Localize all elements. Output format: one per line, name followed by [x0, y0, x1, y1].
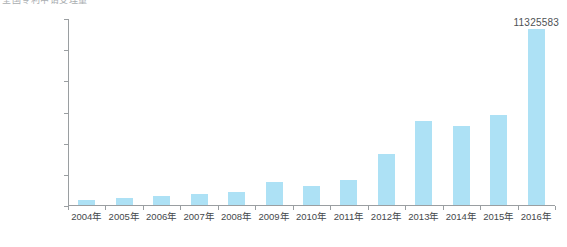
y-axis-tick	[64, 113, 68, 114]
x-axis-tick-label: 2011年	[334, 209, 364, 223]
bar	[228, 192, 245, 205]
x-axis-tick-label: 2005年	[109, 209, 140, 223]
bar	[528, 29, 545, 205]
bar	[266, 182, 283, 205]
bar	[153, 196, 170, 205]
bar-value-label: 11325583	[514, 17, 559, 28]
y-axis-tick	[64, 19, 68, 20]
x-axis-tick-label: 2010年	[296, 209, 327, 223]
x-axis-tick-label: 2007年	[184, 209, 215, 223]
bar	[116, 198, 133, 205]
x-axis-tick-label: 2015年	[483, 209, 514, 223]
x-axis-tick-label: 2012年	[371, 209, 402, 223]
y-axis-tick	[64, 50, 68, 51]
x-axis-tick-label: 2013年	[408, 209, 439, 223]
x-axis-tick-label: 2009年	[258, 209, 289, 223]
x-axis-tick-label: 2014年	[446, 209, 477, 223]
x-axis-tick-label: 2008年	[221, 209, 252, 223]
x-axis-tick-label: 2006年	[146, 209, 177, 223]
x-axis-tick-labels: 2004年2005年2006年2007年2008年2009年2010年2011年…	[68, 209, 555, 229]
bar	[303, 186, 320, 205]
scan-edge-artifact	[0, 241, 567, 247]
y-axis-tick	[64, 81, 68, 82]
bar	[340, 180, 357, 205]
chart-title-clipped: 全国专利申请受理量	[0, 0, 567, 9]
chart-title-text: 全国专利申请受理量	[2, 0, 88, 6]
bar	[191, 194, 208, 205]
x-axis-tick	[555, 206, 556, 210]
bar	[453, 126, 470, 205]
bar	[378, 154, 395, 205]
x-axis-tick-label: 2016年	[521, 209, 552, 223]
y-axis-tick	[64, 175, 68, 176]
x-axis-line	[68, 205, 555, 206]
x-axis-tick-label: 2004年	[71, 209, 102, 223]
bar	[490, 115, 507, 205]
bar	[78, 200, 95, 206]
bar	[415, 121, 432, 205]
chart-plot-area: 11325583	[68, 19, 555, 206]
y-axis-line	[68, 19, 69, 206]
y-axis-tick	[64, 144, 68, 145]
